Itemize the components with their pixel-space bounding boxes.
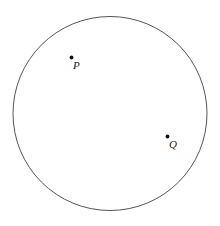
figure-drawing (0, 0, 220, 226)
point-q-label: Q (169, 139, 177, 150)
point-p-label: P (73, 60, 80, 71)
circle-outline (13, 17, 207, 211)
figure-canvas: P Q (0, 0, 220, 226)
